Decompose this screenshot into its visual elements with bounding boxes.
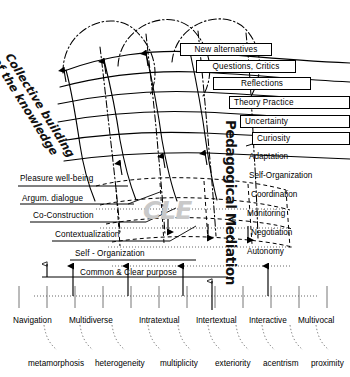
ladder-rung-1: Pleasure well-being <box>20 174 93 184</box>
sub-label-3: multiplicity <box>160 359 198 369</box>
staircase-step-2: Questions, Critics <box>196 60 296 73</box>
watermark-cle: CLE <box>143 196 191 225</box>
axis-label-6: Multivocal <box>298 316 334 326</box>
staircase-step-1: New alternatives <box>180 43 272 56</box>
sub-label-6: proximity <box>311 359 344 369</box>
ladder-rung-3: Co-Construction <box>33 211 94 221</box>
ladder-rung-4: Contextualization <box>55 230 120 240</box>
axis-label-4: Intertextual <box>196 316 237 326</box>
staircase-step-6: Curiosity <box>252 132 350 145</box>
mediation-label-6: Autonomy <box>247 247 284 257</box>
axis-label-5: Interactive <box>249 316 287 326</box>
ladder-rung-5: Self - Organization <box>75 249 145 259</box>
axis-to-sub-connectors <box>44 325 329 350</box>
sub-label-1: metamorphosis <box>28 359 84 369</box>
sub-label-5: acentrism <box>263 359 299 369</box>
ladder-rung-2: Argum. dialogue <box>22 194 83 204</box>
mesh-node-arrows-lower <box>120 153 207 175</box>
mediation-label-4: Monitoring <box>247 209 285 219</box>
sub-label-4: exteriority <box>215 359 251 369</box>
sub-label-2: heterogeneity <box>95 359 145 369</box>
mediation-label-3: Coordination <box>251 190 297 200</box>
diagram-canvas: CLE Collective building of the knowledge… <box>0 0 350 377</box>
bottom-axis-ticks <box>19 286 327 308</box>
mediation-label-2: Self-Organization <box>249 171 312 181</box>
ladder-rung-6: Common & Clear purpose <box>80 268 177 278</box>
staircase-step-4: Theory Practice <box>229 96 350 109</box>
staircase-step-3: Reflections <box>213 77 311 90</box>
axis-label-2: Multidiverse <box>69 316 113 326</box>
axis-label-3: Intratextual <box>139 316 180 326</box>
axis-label-1: Navigation <box>13 316 52 326</box>
staircase-step-5: Uncertainty <box>240 115 350 128</box>
mediation-label-1: Adaptation <box>249 152 288 162</box>
vertical-title-pedagogical-mediation: Pedagogical Mediation <box>221 120 239 280</box>
mediation-label-5: Negotiation <box>251 228 292 238</box>
